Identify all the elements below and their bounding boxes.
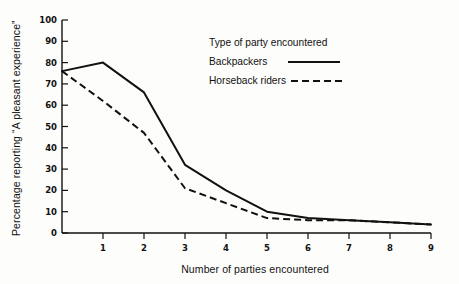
x-tick-label: 5 xyxy=(264,243,270,253)
x-tick-label: 4 xyxy=(223,243,229,253)
y-tick-label: 100 xyxy=(39,15,57,25)
y-tick-label: 40 xyxy=(45,143,57,153)
y-tick-label: 50 xyxy=(45,122,57,132)
x-tick-label: 7 xyxy=(346,243,352,253)
y-tick-label: 80 xyxy=(45,58,57,68)
chart-canvas: Percentage reporting “A pleasant experie… xyxy=(0,0,459,284)
line-chart: Percentage reporting “A pleasant experie… xyxy=(0,0,459,284)
x-tick-label: 2 xyxy=(141,243,147,253)
y-tick-label: 60 xyxy=(45,100,57,110)
y-tick-label: 0 xyxy=(51,228,57,238)
y-tick-label: 10 xyxy=(45,207,57,217)
legend-label-backpackers: Backpackers xyxy=(209,56,267,67)
y-axis-title: Percentage reporting “A pleasant experie… xyxy=(10,20,22,236)
legend-label-horseback-riders: Horseback riders xyxy=(209,75,286,86)
x-tick-label: 9 xyxy=(428,243,434,253)
y-tick-label: 90 xyxy=(45,36,57,46)
y-tick-label: 20 xyxy=(45,185,57,195)
legend-title: Type of party encountered xyxy=(209,37,328,48)
x-tick-label: 1 xyxy=(100,243,106,253)
x-tick-label: 3 xyxy=(182,243,188,253)
y-tick-label: 30 xyxy=(45,164,57,174)
x-axis-title: Number of parties encountered xyxy=(181,263,329,275)
x-tick-label: 6 xyxy=(305,243,311,253)
x-tick-label: 8 xyxy=(387,243,393,253)
y-tick-label: 70 xyxy=(45,79,57,89)
